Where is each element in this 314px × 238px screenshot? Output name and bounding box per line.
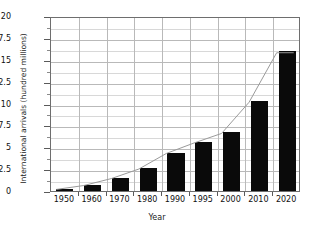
x-axis-tick-label: 1960 (78, 195, 106, 204)
bar (195, 142, 212, 191)
x-axis-tick-label: 2000 (217, 195, 245, 204)
bar (140, 168, 157, 191)
y-axis-tick-label: 10 (1, 100, 11, 109)
y-axis-tick-label: 2.5 (0, 165, 11, 174)
x-axis-tick-label: 2020 (272, 195, 300, 204)
x-axis-tick-label: 1995 (189, 195, 217, 204)
y-axis-title: International arrivals (hundred millions… (19, 14, 28, 204)
y-axis-tick-label: 12.5 (0, 78, 11, 87)
y-axis-tick-label: 17.5 (0, 34, 11, 43)
bar-series (51, 18, 299, 191)
x-axis-tick-label: 1950 (50, 195, 78, 204)
bar (279, 51, 296, 191)
x-axis-title: Year (0, 213, 314, 222)
x-axis-tick-label: 1990 (161, 195, 189, 204)
x-axis-tick-label: 1970 (106, 195, 134, 204)
bar (223, 132, 240, 191)
y-axis-tick-mark (44, 192, 50, 193)
x-axis-tick-label: 2010 (244, 195, 272, 204)
y-axis-tick-label: 0 (6, 187, 11, 196)
bar-chart: International arrivals (hundred millions… (0, 0, 314, 238)
bar (84, 185, 101, 191)
y-axis-tick-label: 15 (1, 56, 11, 65)
x-axis-tick-label: 1980 (133, 195, 161, 204)
y-axis-tick-label: 20 (1, 12, 11, 21)
bar (251, 101, 268, 191)
plot-area (50, 17, 300, 192)
y-axis-tick-label: 5 (6, 143, 11, 152)
bar (112, 178, 129, 191)
bar (167, 153, 184, 192)
y-axis-tick-label: 7.5 (0, 121, 11, 130)
bar (56, 189, 73, 191)
